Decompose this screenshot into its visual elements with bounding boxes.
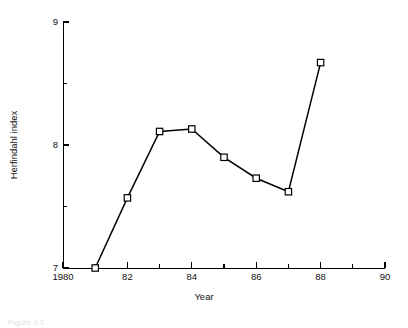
data-point-marker	[253, 175, 259, 181]
data-point-marker	[317, 59, 323, 65]
data-point-marker	[156, 128, 162, 134]
data-point-marker	[189, 126, 195, 132]
series-markers	[92, 59, 324, 271]
data-point-marker	[285, 189, 291, 195]
chart-figure: Herfindahl index Year 78919808284868890 …	[0, 0, 408, 328]
series-layer	[0, 0, 408, 328]
series-line-herfindahl-index	[95, 63, 320, 268]
figure-caption: Figure 4.3	[8, 318, 44, 327]
data-point-marker	[221, 154, 227, 160]
data-point-marker	[92, 265, 98, 271]
data-point-marker	[124, 195, 130, 201]
